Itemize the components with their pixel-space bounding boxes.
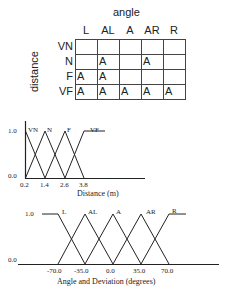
angle-membership-chart <box>0 0 229 297</box>
x-axis-title: Angle and Deviation (degrees) <box>57 277 155 286</box>
y-tick-label: 1.0 <box>25 210 34 218</box>
x-tick-label: 0.0 <box>106 267 115 275</box>
x-tick-label: -70.0 <box>47 267 62 275</box>
series-label: R <box>172 207 177 215</box>
series-label: AR <box>146 208 156 216</box>
x-tick-label: 35.0 <box>133 267 145 275</box>
series-label: A <box>116 208 121 216</box>
x-tick-label: -35.0 <box>74 267 89 275</box>
series-label: AL <box>88 208 97 216</box>
y-tick-label: 0.0 <box>8 256 17 264</box>
series-label: L <box>62 208 66 216</box>
x-tick-label: 70.0 <box>161 267 173 275</box>
